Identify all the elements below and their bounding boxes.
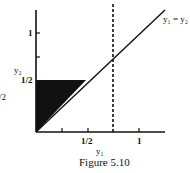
line-label: y₁ = y₂	[163, 15, 188, 24]
figure-diagram	[0, 0, 190, 173]
left-edge-fragment: /2	[0, 93, 6, 102]
x-tick-label-1: 1	[137, 137, 142, 146]
diagonal-line	[36, 10, 165, 132]
y-tick-label-1: 1	[28, 29, 33, 38]
x-tick-label-1-2: 1/2	[81, 137, 93, 146]
x-axis-label: y₁	[96, 147, 104, 156]
y-tick-label-1-2: 1/2	[21, 76, 33, 85]
y-axis-label: y₂	[14, 66, 22, 75]
figure-caption: Figure 5.10	[79, 157, 130, 168]
